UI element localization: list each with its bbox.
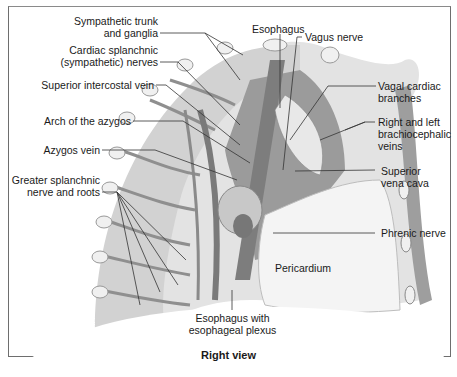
label-line: branches	[378, 92, 441, 104]
label-superior-intercostal-vein: Superior intercostal vein	[41, 79, 154, 91]
label-azygos-vein: Azygos vein	[43, 144, 100, 156]
label-line: Pericardium	[275, 262, 331, 274]
label-line: and ganglia	[74, 27, 158, 39]
label-esophagus: Esophagus	[252, 23, 305, 35]
view-caption: Right view	[0, 349, 457, 361]
label-line: Esophagus with	[160, 312, 305, 324]
label-vagal-cardiac-branches: Vagal cardiac branches	[378, 80, 441, 104]
label-line: Superior intercostal vein	[41, 79, 154, 91]
label-line: brachiocephalic	[378, 128, 451, 140]
label-line: vena cava	[381, 177, 429, 189]
label-line: Vagal cardiac	[378, 80, 441, 92]
label-line: Vagus nerve	[305, 31, 363, 43]
label-line: Right and left	[378, 116, 451, 128]
label-line: Sympathetic trunk	[74, 15, 158, 27]
label-cardiac-splanchnic: Cardiac splanchnic (sympathetic) nerves	[61, 44, 158, 68]
label-line: veins	[378, 140, 451, 152]
label-sympathetic-trunk: Sympathetic trunk and ganglia	[74, 15, 158, 39]
label-brachiocephalic-veins: Right and left brachiocephalic veins	[378, 116, 451, 152]
label-line: (sympathetic) nerves	[61, 56, 158, 68]
label-line: esophageal plexus	[160, 324, 305, 336]
label-line: Cardiac splanchnic	[61, 44, 158, 56]
label-phrenic-nerve: Phrenic nerve	[381, 227, 446, 239]
label-line: Esophagus	[252, 23, 305, 35]
label-line: Greater splanchnic	[12, 174, 100, 186]
label-greater-splanchnic: Greater splanchnic nerve and roots	[12, 174, 100, 198]
label-esophagus-plexus: Esophagus with esophageal plexus	[160, 312, 305, 336]
label-line: Phrenic nerve	[381, 227, 446, 239]
label-vagus-nerve: Vagus nerve	[305, 31, 363, 43]
label-arch-of-azygos: Arch of the azygos	[44, 115, 131, 127]
label-line: Arch of the azygos	[44, 115, 131, 127]
label-superior-vena-cava: Superior vena cava	[381, 165, 429, 189]
label-line: Azygos vein	[43, 144, 100, 156]
label-line: Superior	[381, 165, 429, 177]
label-pericardium: Pericardium	[275, 262, 331, 274]
label-line: nerve and roots	[12, 186, 100, 198]
